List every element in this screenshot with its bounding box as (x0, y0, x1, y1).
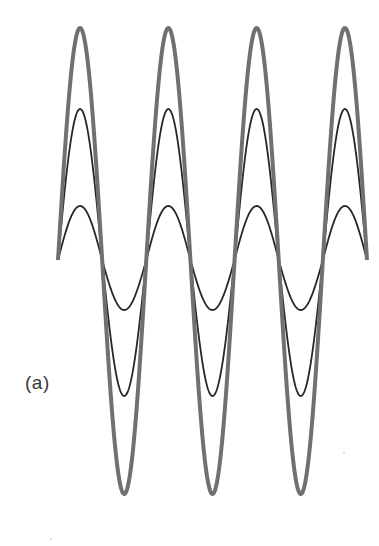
panel-label: (a) (25, 372, 50, 394)
scan-speck (343, 452, 345, 454)
resultant-wave (58, 28, 367, 494)
scan-speck (50, 538, 52, 540)
figure-canvas: (a) (0, 0, 379, 546)
component-wave-medium (58, 109, 367, 396)
waves-diagram (0, 0, 379, 546)
